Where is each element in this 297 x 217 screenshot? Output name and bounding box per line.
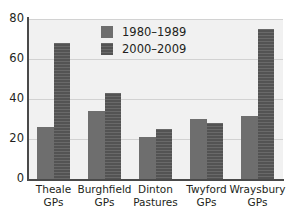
y-axis-line xyxy=(27,17,29,181)
legend-entry: 1980–1989 xyxy=(101,23,221,40)
bar xyxy=(241,116,258,179)
legend-color-swatch xyxy=(101,43,113,55)
bar-group xyxy=(37,19,70,179)
y-axis-tick-label: 60 xyxy=(0,53,24,65)
x-axis-category-label: WraysburyGPs xyxy=(224,183,291,209)
x-axis-category-label-line: Wraysbury xyxy=(224,183,291,196)
legend-color-swatch xyxy=(101,26,113,38)
y-axis-labels: 806040200 xyxy=(0,19,24,179)
x-axis-category-label-line: GPs xyxy=(224,196,291,209)
x-axis-line xyxy=(27,179,284,181)
chart-legend: 1980–19892000–2009 xyxy=(101,23,221,57)
bar xyxy=(156,129,173,179)
bar xyxy=(139,137,156,179)
y-axis-tick-label: 40 xyxy=(0,93,24,105)
bar xyxy=(207,123,224,179)
bar xyxy=(105,93,122,179)
bar xyxy=(37,127,54,179)
bar xyxy=(258,29,275,179)
legend-label: 1980–1989 xyxy=(122,26,186,38)
bar-chart-figure: 806040200 1980–19892000–2009 ThealeGPsBu… xyxy=(0,0,297,217)
bar-group xyxy=(241,19,274,179)
y-axis-tick-label: 20 xyxy=(0,133,24,145)
x-axis-labels: ThealeGPsBurghfieldGPsDintonPasturesTwyf… xyxy=(28,183,283,217)
bar xyxy=(88,111,105,179)
legend-label: 2000–2009 xyxy=(122,43,186,55)
y-axis-tick-label: 80 xyxy=(0,13,24,25)
bar xyxy=(54,43,71,179)
legend-entry: 2000–2009 xyxy=(101,40,221,57)
bar xyxy=(190,119,207,179)
